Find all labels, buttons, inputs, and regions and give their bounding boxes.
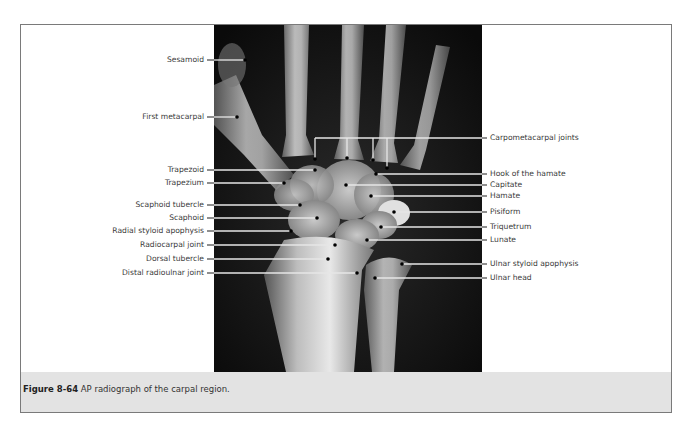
pointer-dot: [243, 58, 247, 62]
figure-caption: Figure 8-64 AP radiograph of the carpal …: [23, 384, 230, 394]
pointer-dot: [313, 157, 317, 161]
label-distal-radioulnar-joint: Distal radioulnar joint: [122, 268, 204, 278]
label-capitate: Capitate: [490, 180, 522, 190]
label-triquetrum: Triquetrum: [490, 222, 531, 232]
label-trapezium: Trapezium: [165, 178, 204, 188]
pointer-dot: [355, 271, 359, 275]
label-radiocarpal-joint: Radiocarpal joint: [140, 240, 204, 250]
pointer-dot: [373, 276, 377, 280]
label-scaphoid-tubercle: Scaphoid tubercle: [136, 200, 204, 210]
pointer-dot: [298, 203, 302, 207]
pointer-dot: [400, 262, 404, 266]
pointer-dot: [392, 210, 396, 214]
label-trapezoid: Trapezoid: [168, 165, 204, 175]
pointer-dot: [365, 238, 369, 242]
pointer-dot: [379, 225, 383, 229]
label-dorsal-tubercle: Dorsal tubercle: [146, 254, 204, 264]
pointer-dot: [289, 229, 293, 233]
label-lunate: Lunate: [490, 235, 516, 245]
pointer-dot: [374, 172, 378, 176]
pointer-dot: [313, 168, 317, 172]
pointer-dot: [371, 158, 375, 162]
label-carpometacarpal-joints: Carpometacarpal joints: [490, 133, 579, 143]
pointer-dot: [315, 216, 319, 220]
label-ulnar-head: Ulnar head: [490, 273, 532, 283]
label-radial-styloid-apophysis: Radial styloid apophysis: [112, 226, 204, 236]
pointer-dot: [344, 183, 348, 187]
label-hamate: Hamate: [490, 191, 520, 201]
leader-lines-overlay: [0, 0, 691, 431]
label-ulnar-styloid-apophysis: Ulnar styloid apophysis: [490, 259, 578, 269]
pointer-dot: [369, 194, 373, 198]
pointer-dot: [326, 257, 330, 261]
label-hook-of-the-hamate: Hook of the hamate: [490, 169, 566, 179]
pointer-dot: [345, 156, 349, 160]
label-scaphoid: Scaphoid: [169, 213, 204, 223]
figure-number: Figure 8-64: [23, 384, 78, 394]
pointer-dot: [385, 166, 389, 170]
figure-caption-text: AP radiograph of the carpal region.: [81, 384, 230, 394]
label-pisiform: Pisiform: [490, 207, 520, 217]
label-first-metacarpal: First metacarpal: [142, 112, 204, 122]
label-sesamoid: Sesamoid: [167, 55, 204, 65]
pointer-dot: [333, 243, 337, 247]
pointer-dot: [282, 181, 286, 185]
pointer-dot: [235, 115, 239, 119]
